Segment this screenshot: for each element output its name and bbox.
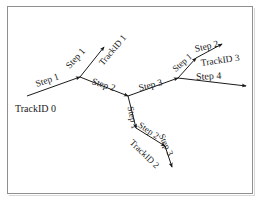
figure-canvas: TrackID 0 Step 1 Step 1 TrackID 1 Step 2… [0,0,261,204]
graph-edges [0,0,261,204]
label-trackid0: TrackID 0 [15,104,56,114]
label-step4: Step 4 [196,71,222,82]
